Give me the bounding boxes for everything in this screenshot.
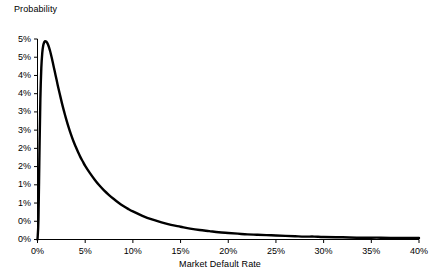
y-axis-tick-label: 0% [5, 217, 31, 226]
chart-container: Probability Market Default Rate 5%5%4%4%… [0, 0, 440, 275]
y-axis-tick-label: 1% [5, 199, 31, 208]
plot-area [0, 0, 440, 275]
x-axis-tick-label: 30% [304, 247, 344, 256]
x-axis-tick-label: 35% [351, 247, 391, 256]
x-axis-tick-label: 10% [113, 247, 153, 256]
x-axis-tick-label: 40% [399, 247, 439, 256]
y-axis-tick-label: 4% [5, 89, 31, 98]
y-axis-ticks [34, 39, 38, 240]
y-axis-tick-label: 0% [5, 235, 31, 244]
x-axis-tick-label: 5% [65, 247, 105, 256]
y-axis-tick-label: 5% [5, 35, 31, 44]
y-axis-tick-label: 2% [5, 162, 31, 171]
y-axis-tick-label: 5% [5, 53, 31, 62]
x-axis-tick-label: 15% [161, 247, 201, 256]
x-axis-tick-label: 25% [256, 247, 296, 256]
x-axis-tick-label: 20% [208, 247, 248, 256]
x-axis-tick-label: 0% [18, 247, 58, 256]
y-axis-tick-label: 2% [5, 144, 31, 153]
y-axis-tick-label: 3% [5, 126, 31, 135]
x-axis-ticks [38, 240, 420, 244]
axis-lines [37, 39, 419, 240]
y-axis-tick-label: 3% [5, 107, 31, 116]
y-axis-tick-label: 1% [5, 180, 31, 189]
y-axis-tick-label: 4% [5, 71, 31, 80]
probability-density-curve [38, 41, 420, 239]
